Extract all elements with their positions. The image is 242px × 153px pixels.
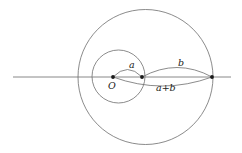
point-a-dot — [140, 75, 144, 79]
point-a-plus-b-dot — [210, 75, 214, 79]
point-O-dot — [111, 75, 115, 79]
small-circle — [92, 50, 145, 103]
geometry-figure: a b a+b O — [0, 0, 242, 153]
arc-segment-b — [142, 68, 212, 78]
arc-segment-a — [113, 70, 142, 78]
arc-segment-a-plus-b — [113, 77, 212, 86]
figure-canvas — [0, 0, 242, 153]
